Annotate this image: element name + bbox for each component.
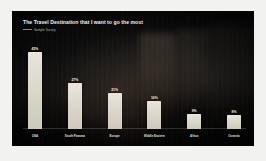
bar-value-label: 21% [111,88,118,92]
bar-column[interactable]: 16%Middle Eastern [146,41,162,129]
bar-category-label: Oceania [228,135,239,138]
bar-category-label: Europe [110,135,120,138]
bar-rect[interactable] [147,101,161,129]
bar-rect[interactable] [68,83,82,129]
bar-column[interactable]: 45%USA [27,41,43,129]
chart-slide: The Travel Destination that I want to go… [12,11,254,146]
bar-value-label: 8% [232,110,237,114]
bar-category-label: Middle Eastern [144,135,165,138]
bar-value-label: 9% [192,109,197,113]
bar-rect[interactable] [187,114,201,129]
subtitle-rule [23,29,32,30]
bar-series: 45%USA27%South Panama21%Europe16%Middle … [23,41,246,129]
bar-value-label: 45% [32,47,39,51]
bar-column[interactable]: 21%Europe [107,41,123,129]
chart-header: The Travel Destination that I want to go… [23,19,223,32]
bar-column[interactable]: 27%South Panama [67,41,83,129]
bar-column[interactable]: 9%Africa [186,41,202,129]
bar-column[interactable]: 8%Oceania [226,41,242,129]
bar-rect[interactable] [108,93,122,129]
chart-subtitle-row: Sample Survey [23,28,223,32]
bar-rect[interactable] [227,115,241,129]
slide-page: The Travel Destination that I want to go… [0,0,266,161]
chart-title: The Travel Destination that I want to go… [23,19,223,25]
plot-area: 45%USA27%South Panama21%Europe16%Middle … [23,41,246,140]
chart-subtitle: Sample Survey [34,28,56,32]
bar-rect[interactable] [28,52,42,129]
bar-value-label: 16% [151,96,158,100]
bar-value-label: 27% [71,78,78,82]
bar-category-label: Africa [190,135,198,138]
bar-category-label: South Panama [65,135,85,138]
bar-category-label: USA [32,135,38,138]
